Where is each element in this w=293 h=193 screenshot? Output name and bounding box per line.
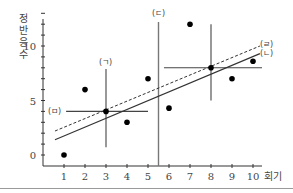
x-tick-label: 1 — [61, 171, 67, 182]
x-tick-label: 7 — [187, 171, 193, 182]
labels: 정 반 응 수 회기 (ㄱ) (ㄷ) (ㄹ) (ㄴ) (ㅁ) — [19, 9, 282, 182]
axes: 051012345678910 — [23, 13, 262, 182]
y-axis-label-char-3: 응 — [19, 37, 28, 48]
x-tick-label: 2 — [82, 171, 88, 182]
x-tick-label: 3 — [103, 171, 109, 182]
annotation-label-g: (ㄱ) — [99, 58, 112, 67]
annotation-label-n: (ㄴ) — [260, 49, 273, 58]
data-point — [187, 21, 193, 27]
bottom-divider — [0, 188, 293, 189]
x-tick-label: 10 — [247, 171, 260, 182]
annotation-label-r: (ㄹ) — [260, 40, 273, 49]
solid-trend-line — [55, 54, 260, 140]
data-point — [208, 65, 214, 71]
x-tick-label: 6 — [166, 171, 172, 182]
scatter-chart: 051012345678910 정 반 응 수 회기 (ㄱ) (ㄷ) (ㄹ) (… — [0, 0, 293, 193]
x-tick-label: 4 — [124, 171, 130, 182]
data-point — [61, 152, 67, 158]
data-point — [124, 120, 130, 126]
y-axis-label-char-4: 수 — [19, 49, 28, 60]
annotation-label-m: (ㅁ) — [48, 107, 61, 116]
trend-lines — [55, 46, 260, 140]
data-point — [82, 87, 88, 93]
x-tick-label: 9 — [229, 171, 235, 182]
x-tick-label: 8 — [208, 171, 214, 182]
x-tick-label: 5 — [145, 171, 151, 182]
data-point — [166, 105, 172, 111]
annotation-label-d: (ㄷ) — [152, 9, 165, 18]
y-tick-label: 5 — [30, 96, 36, 107]
y-axis-label-char-1: 정 — [19, 13, 28, 24]
y-tick-label: 0 — [30, 150, 36, 161]
data-point — [250, 58, 256, 64]
y-axis-label-char-2: 반 — [19, 25, 28, 36]
data-point — [103, 109, 109, 115]
x-axis-label: 회기 — [264, 171, 282, 182]
data-point — [229, 76, 235, 82]
data-point — [145, 76, 151, 82]
